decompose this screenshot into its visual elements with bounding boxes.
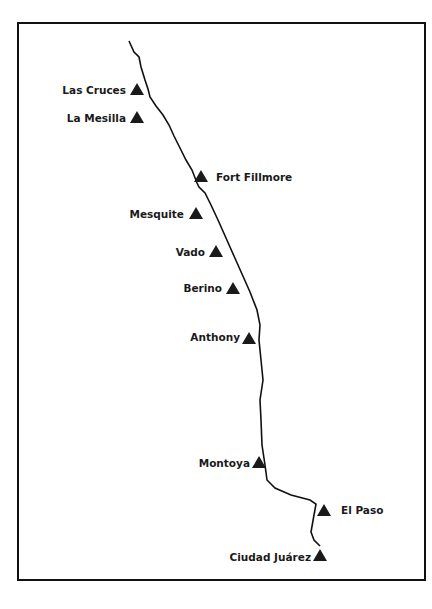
berino-marker-icon xyxy=(226,282,240,294)
berino-label: Berino xyxy=(183,282,222,294)
place-la-mesilla: La Mesilla xyxy=(67,111,144,124)
map-canvas: Las Cruces La Mesilla Fort Fillmore Mesq… xyxy=(0,0,432,609)
mesquite-marker-icon xyxy=(189,207,203,219)
place-montoya: Montoya xyxy=(199,456,266,469)
place-anthony: Anthony xyxy=(190,331,256,344)
ciudad-juarez-label: Ciudad Juárez xyxy=(230,551,311,563)
vado-marker-icon xyxy=(209,245,223,257)
las-cruces-marker-icon xyxy=(130,83,144,95)
place-berino: Berino xyxy=(183,282,240,294)
el-paso-marker-icon xyxy=(317,504,331,516)
place-el-paso: El Paso xyxy=(317,504,383,516)
montoya-label: Montoya xyxy=(199,457,250,469)
fort-fillmore-label: Fort Fillmore xyxy=(216,171,292,183)
fort-fillmore-marker-icon xyxy=(194,170,208,182)
mesquite-label: Mesquite xyxy=(129,208,184,220)
place-vado: Vado xyxy=(176,245,223,258)
ciudad-juarez-marker-icon xyxy=(313,549,327,561)
place-ciudad-juarez: Ciudad Juárez xyxy=(230,549,327,563)
la-mesilla-label: La Mesilla xyxy=(67,112,126,124)
anthony-label: Anthony xyxy=(190,331,240,343)
las-cruces-label: Las Cruces xyxy=(62,84,126,96)
place-mesquite: Mesquite xyxy=(129,207,203,220)
el-paso-label: El Paso xyxy=(341,504,383,516)
river-line xyxy=(129,41,320,546)
place-fort-fillmore: Fort Fillmore xyxy=(194,170,292,183)
vado-label: Vado xyxy=(176,246,205,258)
place-las-cruces: Las Cruces xyxy=(62,83,144,96)
anthony-marker-icon xyxy=(242,332,256,344)
la-mesilla-marker-icon xyxy=(130,111,144,123)
